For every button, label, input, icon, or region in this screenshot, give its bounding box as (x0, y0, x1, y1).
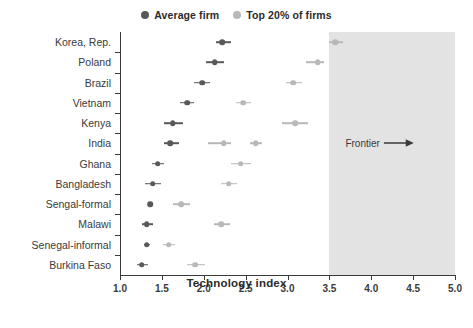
y-tick (115, 235, 120, 236)
data-point (150, 181, 156, 187)
data-point (184, 100, 190, 106)
y-axis-category-label: Bangladesh (56, 178, 111, 190)
data-point (292, 120, 298, 126)
legend-swatch-average-firm (141, 11, 149, 19)
y-axis-category-label: Ghana (79, 158, 111, 170)
data-point (193, 262, 199, 268)
arrow-right-icon (384, 139, 414, 148)
data-point (178, 201, 184, 207)
y-axis-category-label: Korea, Rep. (55, 36, 111, 48)
data-point (240, 100, 246, 106)
data-point (166, 242, 172, 248)
data-point (144, 222, 150, 228)
x-axis-title: Technology index (0, 277, 473, 289)
error-bar (208, 143, 231, 145)
y-axis-category-label: Burkina Faso (49, 259, 111, 271)
y-tick (115, 214, 120, 215)
y-tick (115, 255, 120, 256)
y-tick (115, 174, 120, 175)
y-axis-category-label: Brazil (85, 77, 111, 89)
data-point (155, 161, 161, 167)
y-axis-category-label: Kenya (81, 117, 111, 129)
y-axis-category-label: Vietnam (73, 97, 111, 109)
y-axis-category-label: Senegal-informal (32, 239, 111, 251)
data-point (167, 141, 173, 147)
data-point (332, 39, 338, 45)
frontier-shaded-region (329, 32, 455, 275)
data-point (199, 80, 205, 86)
data-point (221, 141, 227, 147)
y-tick (115, 73, 120, 74)
y-axis-category-label: Sengal-formal (46, 198, 111, 210)
y-axis-line (120, 32, 121, 275)
legend-swatch-top-20-firms (233, 11, 241, 19)
y-tick (115, 154, 120, 155)
data-point (144, 242, 150, 248)
y-tick (115, 93, 120, 94)
technology-index-chart: Average firm Top 20% of firms 1.01.52.02… (0, 0, 473, 328)
data-point (226, 181, 232, 187)
y-axis-category-label: India (88, 137, 111, 149)
data-point (170, 120, 176, 126)
y-tick (115, 194, 120, 195)
y-tick (115, 133, 120, 134)
frontier-annotation-label: Frontier (345, 138, 379, 149)
legend-item-average-firm: Average firm (141, 9, 219, 21)
y-axis-category-label: Poland (78, 56, 111, 68)
legend-label-top-20-firms: Top 20% of firms (246, 9, 331, 21)
legend-item-top-20-firms: Top 20% of firms (233, 9, 331, 21)
data-point (219, 39, 225, 45)
plot-area: 1.01.52.02.53.03.54.04.55.0 Korea, Rep.P… (120, 32, 455, 275)
data-point (238, 161, 244, 167)
data-point (315, 60, 321, 66)
data-point (253, 141, 259, 147)
data-point (212, 60, 218, 66)
y-tick (115, 113, 120, 114)
data-point (219, 222, 225, 228)
frontier-annotation: Frontier (345, 138, 413, 149)
y-tick (115, 52, 120, 53)
y-axis-category-label: Malawi (78, 218, 111, 230)
chart-legend: Average firm Top 20% of firms (0, 9, 473, 21)
data-point (147, 201, 153, 207)
data-point (291, 80, 297, 86)
data-point (139, 262, 145, 268)
legend-label-average-firm: Average firm (154, 9, 219, 21)
